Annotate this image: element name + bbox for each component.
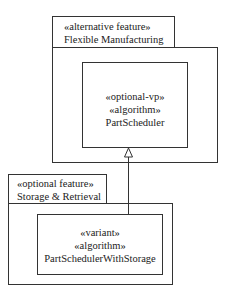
generalization-line	[128, 157, 129, 214]
class-name: PartSchedulerWithStorage	[38, 252, 162, 265]
class-part-scheduler-with-storage[interactable]: «variant» «algorithm» PartSchedulerWithS…	[37, 214, 163, 275]
class-stereotype: «variant»	[38, 226, 162, 239]
class-stereotype: «algorithm»	[83, 103, 187, 116]
class-stereotype: «optional-vp»	[83, 90, 187, 103]
package-name: Flexible Manufacturing	[64, 33, 163, 46]
class-stereotype: «algorithm»	[38, 239, 162, 252]
class-name: PartScheduler	[83, 116, 187, 129]
package-tab-flexible-manufacturing: «alternative feature» Flexible Manufactu…	[52, 16, 175, 48]
package-stereotype: «optional feature»	[17, 177, 94, 190]
class-part-scheduler[interactable]: «optional-vp» «algorithm» PartScheduler	[82, 62, 188, 148]
package-name: Storage & Retrieval	[17, 190, 101, 203]
package-tab-storage-retrieval: «optional feature» Storage & Retrieval	[8, 174, 107, 204]
package-stereotype: «alternative feature»	[64, 20, 151, 33]
generalization-arrowhead-icon	[123, 147, 134, 158]
